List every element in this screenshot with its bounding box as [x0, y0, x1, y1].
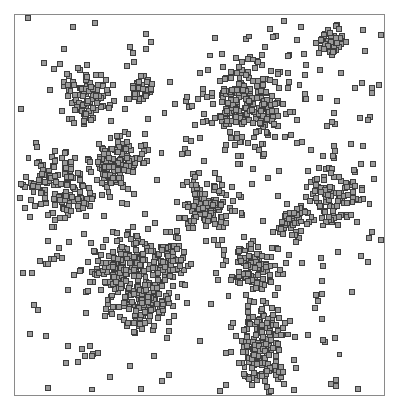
- data-point: [76, 360, 81, 365]
- data-point: [141, 269, 146, 274]
- data-point: [206, 219, 211, 224]
- data-point: [70, 195, 75, 200]
- data-point: [257, 120, 262, 125]
- data-point: [316, 298, 321, 303]
- data-point: [80, 94, 85, 99]
- data-point: [360, 28, 365, 33]
- data-point: [330, 120, 335, 125]
- data-point: [130, 169, 135, 174]
- data-point: [52, 149, 57, 154]
- data-point: [201, 87, 206, 92]
- data-point: [144, 80, 149, 85]
- data-point: [192, 204, 197, 209]
- data-point: [99, 253, 104, 258]
- data-point: [205, 94, 210, 99]
- data-point: [160, 284, 165, 289]
- data-point: [114, 231, 119, 236]
- data-point: [218, 78, 223, 83]
- data-point: [22, 206, 27, 211]
- data-point: [246, 304, 251, 309]
- data-point: [210, 203, 215, 208]
- data-point: [137, 274, 142, 279]
- data-point: [246, 278, 251, 283]
- data-point: [141, 257, 146, 262]
- data-point: [251, 315, 256, 320]
- data-point: [95, 259, 100, 264]
- data-point: [68, 159, 73, 164]
- data-point: [63, 215, 68, 220]
- data-point: [108, 118, 113, 123]
- data-point: [185, 301, 190, 306]
- data-point: [334, 204, 339, 209]
- data-point: [229, 75, 234, 80]
- data-point: [110, 304, 115, 309]
- data-point: [149, 308, 154, 313]
- data-point: [89, 85, 94, 90]
- data-point: [224, 142, 229, 147]
- data-point: [214, 271, 219, 276]
- data-point: [159, 151, 164, 156]
- data-point: [57, 245, 62, 250]
- data-point: [229, 185, 234, 190]
- plot-frame: [14, 14, 385, 396]
- data-point: [65, 287, 70, 292]
- data-point: [309, 215, 314, 220]
- data-point: [68, 208, 73, 213]
- data-point: [98, 72, 103, 77]
- data-point: [50, 210, 55, 215]
- data-point: [170, 258, 175, 263]
- data-point: [278, 226, 283, 231]
- data-point: [243, 248, 248, 253]
- data-point: [234, 120, 239, 125]
- data-point: [91, 106, 96, 111]
- data-point: [261, 219, 266, 224]
- data-point: [237, 192, 242, 197]
- data-point: [133, 248, 138, 253]
- data-point: [305, 221, 310, 226]
- data-point: [107, 165, 112, 170]
- data-point: [64, 72, 69, 77]
- data-point: [147, 313, 152, 318]
- data-point: [105, 297, 110, 302]
- data-point: [84, 62, 89, 67]
- data-point: [255, 281, 260, 286]
- data-point: [301, 51, 306, 56]
- data-point: [379, 237, 384, 242]
- data-point: [32, 203, 37, 208]
- data-point: [208, 302, 213, 307]
- data-point: [72, 93, 77, 98]
- data-point: [66, 82, 71, 87]
- data-point: [148, 248, 153, 253]
- data-point: [165, 297, 170, 302]
- data-point: [201, 206, 206, 211]
- data-point: [217, 388, 222, 393]
- data-point: [293, 334, 298, 339]
- data-point: [155, 286, 160, 291]
- data-point: [96, 351, 101, 356]
- data-point: [314, 292, 319, 297]
- data-point: [62, 46, 67, 51]
- data-point: [329, 381, 334, 386]
- data-point: [251, 57, 256, 62]
- data-point: [68, 166, 73, 171]
- data-point: [224, 221, 229, 226]
- data-point: [125, 321, 130, 326]
- data-point: [86, 259, 91, 264]
- data-point: [42, 60, 47, 65]
- data-point: [237, 361, 242, 366]
- data-point: [272, 135, 277, 140]
- data-point: [219, 237, 224, 242]
- data-point: [266, 352, 271, 357]
- data-point: [260, 307, 265, 312]
- data-point: [318, 95, 323, 100]
- data-point: [30, 271, 35, 276]
- data-point: [216, 176, 221, 181]
- data-point: [276, 316, 281, 321]
- data-point: [114, 134, 119, 139]
- data-point: [319, 256, 324, 261]
- data-point: [250, 382, 255, 387]
- data-point: [269, 94, 274, 99]
- data-point: [236, 249, 241, 254]
- data-point: [276, 194, 281, 199]
- data-point: [320, 338, 325, 343]
